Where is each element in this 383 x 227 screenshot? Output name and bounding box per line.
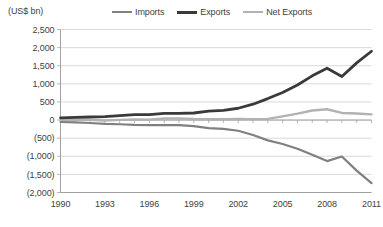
series-line-exports: [61, 51, 372, 118]
y-tick-label: 0: [50, 115, 55, 125]
plot-area: 2,5002,0001,5001,0005000(500)(1,000)(1,5…: [0, 0, 383, 227]
y-tick-label: 2,000: [32, 43, 54, 53]
y-tick-label: 1,500: [32, 61, 54, 71]
y-tick-label: (1,000): [27, 151, 55, 161]
x-tick-label: 2005: [273, 199, 293, 209]
y-tick-marks: [57, 30, 61, 193]
y-tick-label: 1,000: [32, 79, 54, 89]
trade-line-chart: (US$ bn) Imports Exports Net Exports 2,5…: [0, 0, 383, 227]
x-tick-label: 1993: [95, 199, 115, 209]
y-tick-labels: 2,5002,0001,5001,0005000(500)(1,000)(1,5…: [27, 25, 55, 198]
x-tick-label: 2002: [228, 199, 248, 209]
x-tick-label: 2008: [317, 199, 337, 209]
x-tick-label: 1996: [140, 199, 160, 209]
y-tick-label: (1,500): [27, 170, 55, 180]
y-tick-label: 500: [40, 97, 55, 107]
x-tick-labels: 19901993199619992002200520082011: [51, 199, 381, 209]
y-tick-label: (2,000): [27, 188, 55, 198]
x-tick-label: 2011: [362, 199, 381, 209]
y-tick-label: (500): [34, 133, 55, 143]
series-lines: [61, 51, 372, 183]
series-line-imports: [61, 122, 372, 183]
x-tick-label: 1990: [51, 199, 71, 209]
y-tick-label: 2,500: [32, 25, 54, 35]
x-tick-label: 1999: [184, 199, 204, 209]
